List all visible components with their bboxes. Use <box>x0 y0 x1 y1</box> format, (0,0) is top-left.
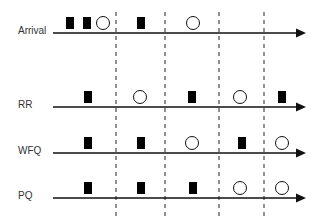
scheduling-diagram <box>0 0 323 223</box>
filled-rectangle-packet-icon <box>137 17 145 29</box>
packet-markers <box>66 17 289 195</box>
timeline-axes <box>53 29 306 203</box>
filled-rectangle-packet-icon <box>66 17 74 29</box>
filled-rectangle-packet-icon <box>84 182 92 194</box>
filled-rectangle-packet-icon <box>137 137 145 149</box>
hollow-circle-packet-icon <box>97 17 110 30</box>
filled-rectangle-packet-icon <box>84 91 92 103</box>
hollow-circle-packet-icon <box>234 182 247 195</box>
filled-rectangle-packet-icon <box>84 137 92 149</box>
arrow-head-icon <box>296 29 306 38</box>
hollow-circle-packet-icon <box>276 137 289 150</box>
filled-rectangle-packet-icon <box>83 17 91 29</box>
filled-rectangle-packet-icon <box>189 182 197 194</box>
arrow-head-icon <box>296 194 306 203</box>
filled-rectangle-packet-icon <box>278 91 286 103</box>
arrow-head-icon <box>296 103 306 112</box>
filled-rectangle-packet-icon <box>137 182 145 194</box>
hollow-circle-packet-icon <box>187 17 200 30</box>
hollow-circle-packet-icon <box>234 91 247 104</box>
hollow-circle-packet-icon <box>186 137 199 150</box>
hollow-circle-packet-icon <box>276 182 289 195</box>
arrow-head-icon <box>296 149 306 158</box>
hollow-circle-packet-icon <box>134 91 147 104</box>
filled-rectangle-packet-icon <box>238 137 246 149</box>
filled-rectangle-packet-icon <box>188 91 196 103</box>
